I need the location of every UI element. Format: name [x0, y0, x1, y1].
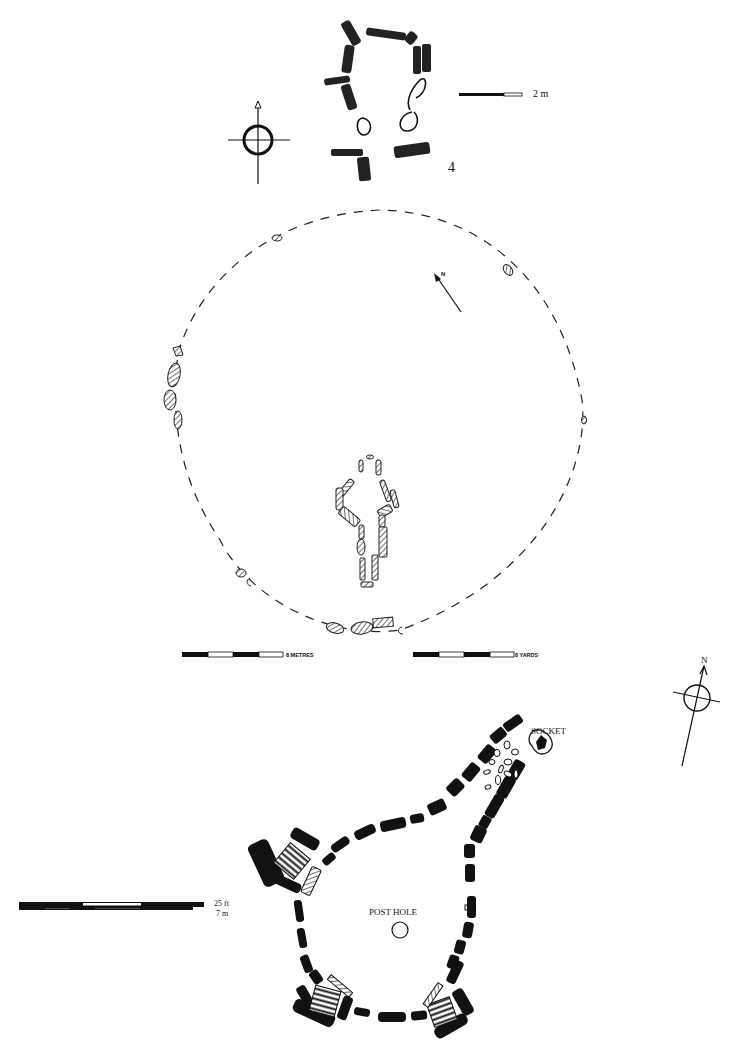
chamber-lower-right — [423, 983, 475, 1041]
circle-outline — [175, 210, 582, 632]
figure-number: 4 — [448, 160, 455, 175]
post-hole-feature: POST HOLE — [369, 907, 418, 938]
scale-m-label: 7 m — [216, 909, 229, 918]
socket-label: SOCKET — [531, 726, 567, 736]
tomb-north-label: N — [701, 655, 708, 665]
scale-bar-metres: 8 METRES — [182, 652, 314, 658]
socket-feature: SOCKET — [529, 726, 566, 754]
tomb-scale-bar: 25 ft 7 m — [19, 899, 230, 918]
plan-4-scale-bar: 2 m — [459, 88, 549, 99]
stone-circle-plan: N 8 METRES 8 YARDS — [164, 210, 587, 658]
circle-north-arrow-icon: N — [434, 271, 461, 312]
circle-north-label: N — [441, 271, 445, 277]
tomb-north-marker-icon: N — [673, 655, 720, 766]
plan-4-scale-label: 2 m — [533, 88, 549, 99]
north-marker-icon — [228, 101, 290, 184]
plan-4: 2 m 4 — [228, 19, 549, 184]
plan-4-outline-stones — [357, 79, 425, 135]
central-tomb-stones — [336, 455, 399, 587]
scale-metres-label: 8 METRES — [286, 652, 314, 658]
court-tomb-plan: N — [19, 655, 720, 1040]
scale-ft-label: 25 ft — [214, 899, 230, 908]
chamber-upper-left — [246, 826, 321, 895]
scale-yards-label: 8 YARDS — [515, 652, 539, 658]
post-hole-label: POST HOLE — [369, 907, 418, 917]
chamber-lower-left — [291, 975, 354, 1029]
archaeological-plans: 2 m 4 — [0, 0, 737, 1051]
scale-bar-yards: 8 YARDS — [413, 652, 539, 658]
plan-4-stones — [324, 19, 431, 181]
passage-left-arm — [321, 713, 524, 866]
